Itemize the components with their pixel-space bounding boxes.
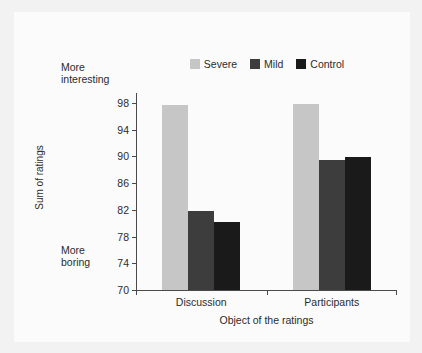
bar-mild-participants — [319, 160, 345, 290]
legend-entry-severe[interactable]: Severe — [190, 59, 237, 70]
bar-severe-participants — [293, 104, 319, 290]
chart-canvas: SevereMildControl More interesting More … — [14, 12, 410, 342]
x-axis-line — [136, 290, 397, 291]
x-axis-tick-label: Participants — [304, 296, 359, 308]
legend-swatch-icon — [250, 59, 260, 69]
bar-control-discussion — [214, 222, 240, 290]
legend-label: Mild — [264, 59, 283, 70]
legend-swatch-icon — [190, 59, 200, 69]
y-axis-tick-label: 70 — [117, 284, 129, 296]
y-axis-tick-label: 74 — [117, 257, 129, 269]
axis-high-note: More interesting — [61, 61, 109, 85]
y-axis-tick-label: 82 — [117, 204, 129, 216]
y-axis-title: Sum of ratings — [34, 118, 45, 238]
legend-entry-mild[interactable]: Mild — [250, 59, 283, 70]
legend-label: Control — [310, 59, 344, 70]
legend-swatch-icon — [296, 59, 306, 69]
y-axis-tick-label: 86 — [117, 177, 129, 189]
chart-legend: SevereMildControl — [136, 56, 398, 72]
y-axis-line — [136, 93, 137, 290]
chart-figure: SevereMildControl More interesting More … — [0, 0, 422, 353]
plot-area: 7074788286909498DiscussionParticipants — [136, 93, 397, 290]
y-axis-tick-label: 78 — [117, 231, 129, 243]
y-axis-tick-label: 98 — [117, 97, 129, 109]
plot-inner: 7074788286909498DiscussionParticipants — [136, 93, 397, 290]
axis-low-note: More boring — [61, 244, 90, 268]
y-axis-tick-label: 90 — [117, 150, 129, 162]
y-axis-tick-label: 94 — [117, 124, 129, 136]
bar-mild-discussion — [188, 211, 214, 290]
legend-label: Severe — [204, 59, 237, 70]
legend-entry-control[interactable]: Control — [296, 59, 344, 70]
bar-control-participants — [345, 157, 371, 290]
x-axis-title: Object of the ratings — [136, 314, 397, 326]
x-axis-tick-label: Discussion — [176, 296, 227, 308]
bar-severe-discussion — [162, 105, 188, 290]
